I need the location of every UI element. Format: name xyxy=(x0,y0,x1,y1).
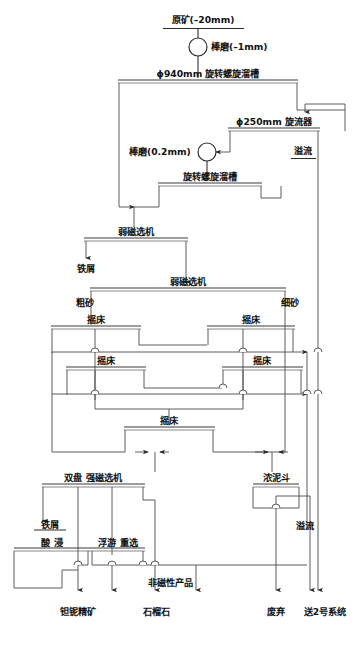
hop-cone xyxy=(272,504,280,508)
chute1-left-out xyxy=(119,83,134,207)
row1-collector xyxy=(52,352,293,353)
middlings-join xyxy=(95,400,243,409)
coarse-sand-label: 粗砂 xyxy=(76,298,94,307)
lims-2-label: 弱磁选机 xyxy=(170,277,206,286)
table-4-label: 摇床 xyxy=(253,356,271,365)
hop-b4 xyxy=(151,561,159,565)
thickener-cone-label: 浓泥斗 xyxy=(263,473,290,482)
flowsheet-lines xyxy=(0,0,357,645)
table-3-label: 摇床 xyxy=(97,356,115,365)
chute2-right-out xyxy=(261,186,281,198)
dual-disc-hims-label: 双盘 强磁选机 xyxy=(64,473,121,482)
rod-mill-1-label: 棒磨(–1mm) xyxy=(211,42,268,51)
lims-1-label: 弱磁选机 xyxy=(118,227,154,236)
cyclone-underflow xyxy=(216,131,230,152)
feed-label: 原矿(–20mm) xyxy=(172,15,235,24)
iron-scrap-1-label: 铁屑 xyxy=(77,264,95,273)
overflow-top-underline xyxy=(291,158,316,159)
hop-r1r2 xyxy=(303,390,311,394)
table5-out-left xyxy=(52,430,125,452)
fine-sand-label: 细砂 xyxy=(281,298,299,307)
garnet-label: 石榴石 xyxy=(143,607,170,616)
hop-trunk-1 xyxy=(314,348,322,352)
acid-leach-return xyxy=(62,570,78,588)
to-system-2-label: 送2号系统 xyxy=(304,607,346,616)
iron-scrap-2-label: 铁屑 xyxy=(41,520,59,529)
rod-mill-1-symbol xyxy=(189,38,207,56)
hims-out-4 xyxy=(143,487,155,590)
hop-trunk-2 xyxy=(314,390,322,394)
nonmagnetic-product-label: 非磁性产品 xyxy=(148,578,193,587)
cyclone-label: ϕ250mm 旋流器 xyxy=(236,117,312,126)
flowsheet-canvas: 原矿(–20mm) 棒磨(–1mm) ϕ940mm 旋转螺旋溜槽 ϕ250mm … xyxy=(0,0,357,645)
chute2-left-out xyxy=(134,186,159,207)
hop-b1 xyxy=(74,561,82,565)
table1-out-right xyxy=(139,329,207,345)
rod-mill-2-label: 棒磨(0.2mm) xyxy=(129,147,191,156)
acid-leach-body-left xyxy=(14,551,62,588)
ta-nb-concentrate-label: 钽铌精矿 xyxy=(60,607,96,616)
spiral-chute-2-label: 旋转螺旋溜槽 xyxy=(183,172,237,181)
hop-r1-b xyxy=(239,348,247,352)
overflow-top-label: 溢流 xyxy=(294,146,312,155)
hop-b2 xyxy=(108,561,116,565)
recycle-to-chute1 xyxy=(305,104,345,112)
hop-r2-c xyxy=(219,384,227,388)
cone-overflow xyxy=(276,496,310,590)
table-1-label: 摇床 xyxy=(87,315,105,324)
rod-mill-2-symbol xyxy=(198,143,216,161)
table-2-label: 摇床 xyxy=(242,315,260,324)
hop-b3 xyxy=(139,561,147,565)
hop-r1-a xyxy=(91,348,99,352)
table2-out-right xyxy=(293,329,307,352)
table5-out-right xyxy=(213,430,285,452)
table3-out-right xyxy=(144,370,222,388)
overflow-bottom-label: 溢流 xyxy=(296,521,314,530)
float-gravity-label: 浮游 重选 xyxy=(98,538,137,547)
hop-r2-b xyxy=(239,390,247,394)
hop-r2-a xyxy=(91,390,99,394)
discard-label: 废弃 xyxy=(267,607,285,616)
spiral-chute-1-label: ϕ940mm 旋转螺旋溜槽 xyxy=(157,69,260,78)
table-5-label: 摇床 xyxy=(160,416,178,425)
acid-leach-label: 酸 浸 xyxy=(41,538,62,547)
